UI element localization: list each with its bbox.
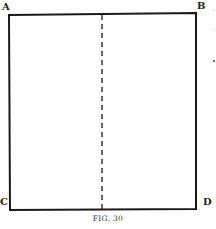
figure-caption: FIG. 30: [0, 214, 216, 223]
margin-mark: [213, 60, 215, 62]
label-c: C: [0, 196, 8, 207]
label-a: A: [2, 1, 10, 12]
label-b: B: [197, 0, 205, 11]
margin-mark: [213, 9, 214, 10]
margin-mark: [213, 29, 214, 30]
square-diagram: [0, 0, 216, 229]
label-d: D: [203, 196, 212, 207]
